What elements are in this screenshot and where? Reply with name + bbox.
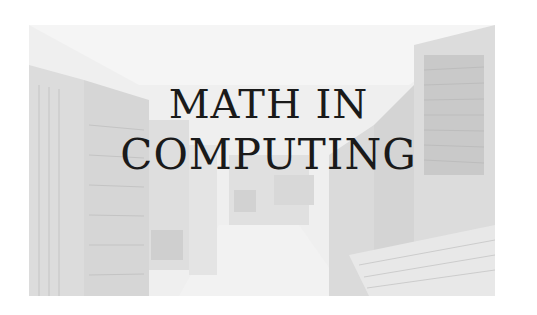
title: MATH IN COMPUTING (0, 79, 537, 181)
title-line-1: MATH IN (0, 79, 537, 129)
title-line-2: COMPUTING (0, 129, 537, 181)
